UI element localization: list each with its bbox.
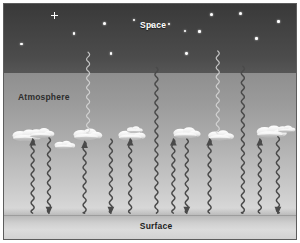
radiation-wave [216,51,219,133]
radiation-wave [87,52,90,133]
radiation-wave [208,139,211,213]
radiation-arrowhead [183,207,190,214]
radiation-wave [31,139,34,213]
radiation-wave [155,67,158,213]
radiation-rays-layer [4,4,296,239]
atmosphere-label: Atmosphere [18,92,70,102]
radiation-arrowhead [275,207,282,214]
surface-label: Surface [140,221,173,231]
space-label: Space [140,20,166,30]
radiation-wave [172,139,175,213]
radiation-arrowhead [206,138,213,145]
diagram-scene: Space Atmosphere Surface [4,4,296,239]
radiation-wave [129,139,132,213]
radiation-wave [83,141,86,213]
radiation-arrowhead [256,138,263,145]
radiation-arrowhead [46,207,53,214]
radiation-arrowhead [170,138,177,145]
radiation-arrowhead [81,140,88,147]
diagram-frame: Space Atmosphere Surface [3,3,297,240]
radiation-wave [241,66,244,213]
radiation-arrowhead [29,138,36,145]
radiation-arrowhead [127,138,134,145]
greenhouse-effect-diagram: Space Atmosphere Surface [0,0,300,243]
radiation-rays [29,51,281,214]
radiation-wave [109,139,112,213]
radiation-wave [47,138,50,213]
radiation-wave [276,137,279,213]
radiation-wave [185,139,188,213]
radiation-arrowhead [107,207,114,214]
radiation-wave [258,139,261,213]
